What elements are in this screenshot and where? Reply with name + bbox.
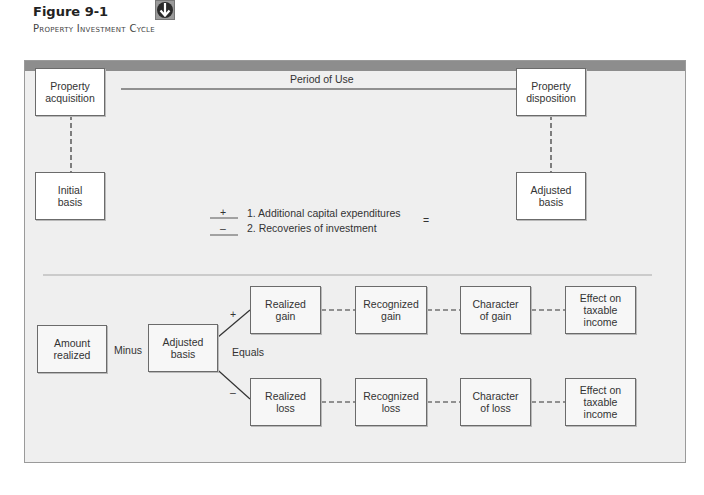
property-acquisition-box: Propertyacquisition [35,68,105,116]
plus-sign: + [220,206,226,218]
effect-on-taxable-income-loss-box: Effect ontaxableincome [565,378,636,426]
figure-title: Property Investment Cycle [33,21,163,36]
diagram-frame: Propertyacquisition Period of Use Proper… [24,60,686,463]
character-of-gain-box: Characterof gain [460,286,531,334]
adjustment-additional-capex: 1. Additional capital expenditures [247,207,401,219]
gain-plus-sign: + [230,308,236,320]
amount-realized-box: Amountrealized [37,325,107,373]
figure-number: Figure 9-1 [33,4,163,19]
recognized-loss-box: Recognizedloss [355,378,427,426]
equals-sign: = [423,214,429,226]
equals-label: Equals [232,346,264,358]
character-of-loss-box: Characterof loss [460,378,531,426]
figure-caption: Figure 9-1 Property Investment Cycle [33,4,163,36]
adjusted-basis-box-top: Adjustedbasis [516,172,586,220]
down-arrow-badge-icon [155,0,175,20]
minus-sign: – [220,222,226,234]
effect-on-taxable-income-gain-box: Effect ontaxableincome [565,286,636,334]
initial-basis-box: Initialbasis [35,172,105,220]
minus-label: Minus [114,344,142,356]
adjustment-recoveries: 2. Recoveries of investment [247,222,377,234]
period-of-use-label: Period of Use [290,73,354,85]
property-disposition-box: Propertydisposition [516,68,586,116]
realized-loss-box: Realizedloss [250,378,321,426]
loss-minus-sign: – [230,386,236,398]
recognized-gain-box: Recognizedgain [355,286,427,334]
adjusted-basis-box-bottom: Adjustedbasis [148,324,218,372]
realized-gain-box: Realizedgain [250,286,321,334]
